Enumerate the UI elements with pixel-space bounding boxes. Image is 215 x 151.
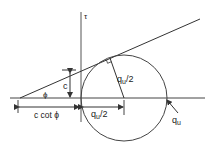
qu-label: qu (172, 115, 181, 126)
half-qu-radius-label: qu/2 (117, 74, 133, 85)
cohesion-label: c (63, 81, 68, 91)
diagram-svg: τ c ϕ c cot ϕ qu/2 qu/2 qu (0, 0, 215, 151)
c-cot-phi-label: c cot ϕ (34, 110, 59, 120)
tau-label: τ (84, 12, 88, 21)
qu-pointer-arrow (167, 100, 178, 113)
half-qu-horizontal-label: qu/2 (91, 109, 107, 120)
mohr-circle-diagram: τ c ϕ c cot ϕ qu/2 qu/2 qu (0, 0, 215, 151)
phi-label: ϕ (43, 90, 48, 99)
